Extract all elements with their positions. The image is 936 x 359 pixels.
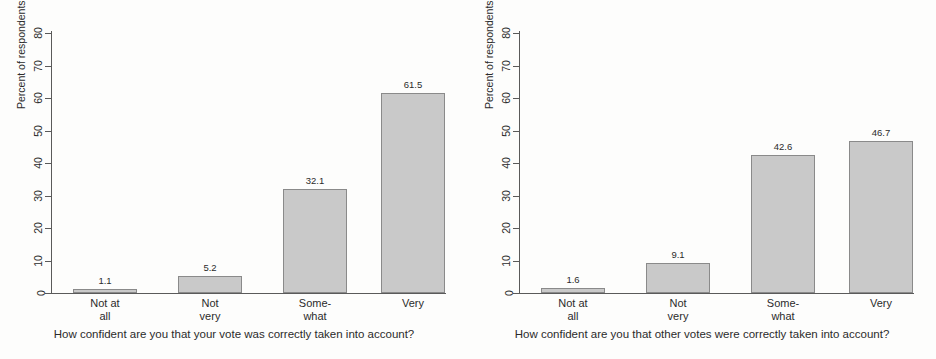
y-axis-tick-label: 60 [468,92,512,104]
bar-value-label: 5.2 [166,263,254,273]
y-axis-tick-label: 80 [0,27,44,39]
plot-area-left: 1.15.232.161.5 [51,33,437,293]
y-axis-tick-label: 40 [0,157,44,169]
x-axis-category-label-line: Not at [51,297,159,310]
y-axis-tick-label-text: 70 [32,60,44,72]
x-axis-line-right [519,293,914,294]
x-axis-category-label: Very [359,297,467,310]
x-axis-category-label-line: all [519,310,627,323]
figure-canvas: Percent of respondents 01020304050607080… [0,0,936,359]
bar-value-label: 61.5 [369,80,457,90]
bar-value-label: 1.6 [529,275,617,285]
y-axis-tick-label: 80 [468,27,512,39]
y-axis-tick-label: 10 [468,255,512,267]
y-axis-tick-label-text: 30 [32,190,44,202]
y-axis-tick-label: 50 [0,125,44,137]
y-axis-tick-label: 70 [0,60,44,72]
y-axis-tick-label-text: 10 [500,255,512,267]
y-axis-tick-label: 10 [0,255,44,267]
x-axis-category-label-line: Some- [261,297,369,310]
y-axis-tick-label-text: 50 [32,125,44,137]
bar [283,189,347,293]
bar-value-label: 32.1 [271,176,359,186]
bar-value-label: 9.1 [634,250,722,260]
y-axis-tick-label-text: 20 [500,222,512,234]
bar [646,263,710,293]
x-axis-line-left [51,293,446,294]
y-axis-tick-label-text: 40 [32,157,44,169]
bar [381,93,445,293]
bar [178,276,242,293]
chart-panel-right: Percent of respondents 01020304050607080… [468,0,936,359]
chart-panel-left: Percent of respondents 01020304050607080… [0,0,468,359]
bar-value-label: 46.7 [837,128,925,138]
y-axis-tick-label: 20 [468,222,512,234]
y-axis-tick-label-text: 80 [32,27,44,39]
x-axis-category-label-line: Not [156,297,264,310]
y-axis-tick-label: 60 [0,92,44,104]
bar [849,141,913,293]
y-axis-tick-label: 0 [0,287,44,299]
y-axis-tick-label: 0 [468,287,512,299]
x-axis-category-label: Notvery [624,297,732,322]
y-axis-tick-label-text: 30 [500,190,512,202]
y-axis-tick-label: 50 [468,125,512,137]
bar-value-label: 1.1 [61,276,149,286]
x-axis-category-label: Some-what [729,297,837,322]
y-axis-tick-label: 40 [468,157,512,169]
x-axis-category-label-line: very [624,310,732,323]
x-axis-category-label-line: Some- [729,297,837,310]
plot-area-right: 1.69.142.646.7 [519,33,905,293]
y-axis-tick-label: 70 [468,60,512,72]
bar [541,288,605,293]
y-axis-tick-label-text: 60 [500,92,512,104]
bar [73,289,137,293]
y-axis-tick-label-text: 80 [500,27,512,39]
y-axis-tick-label: 20 [0,222,44,234]
x-axis-category-label-line: Very [827,297,935,310]
x-axis-category-label-line: Very [359,297,467,310]
x-axis-category-label-line: what [261,310,369,323]
x-axis-category-label-line: Not [624,297,732,310]
bar [751,155,815,293]
x-axis-category-label-line: very [156,310,264,323]
x-axis-category-label-line: Not at [519,297,627,310]
chart-caption-right: How confident are you that other votes w… [468,327,936,341]
x-axis-category-label: Notvery [156,297,264,322]
chart-caption-left: How confident are you that your vote was… [0,327,468,341]
x-axis-category-label-line: all [51,310,159,323]
y-axis-tick-label: 30 [468,190,512,202]
y-axis-tick-label-text: 10 [32,255,44,267]
y-axis-tick-label-text: 50 [500,125,512,137]
x-axis-category-label: Very [827,297,935,310]
x-axis-category-label: Not atall [519,297,627,322]
y-axis-tick-label: 30 [0,190,44,202]
x-axis-category-label-line: what [729,310,837,323]
bar-value-label: 42.6 [739,142,827,152]
y-axis-tick-label-text: 60 [32,92,44,104]
y-axis-tick-label-text: 40 [500,157,512,169]
x-axis-category-label: Some-what [261,297,369,322]
y-axis-tick-label-text: 0 [503,290,515,296]
y-axis-tick-label-text: 0 [35,290,47,296]
y-axis-tick-label-text: 20 [32,222,44,234]
x-axis-category-label: Not atall [51,297,159,322]
y-axis-tick-label-text: 70 [500,60,512,72]
